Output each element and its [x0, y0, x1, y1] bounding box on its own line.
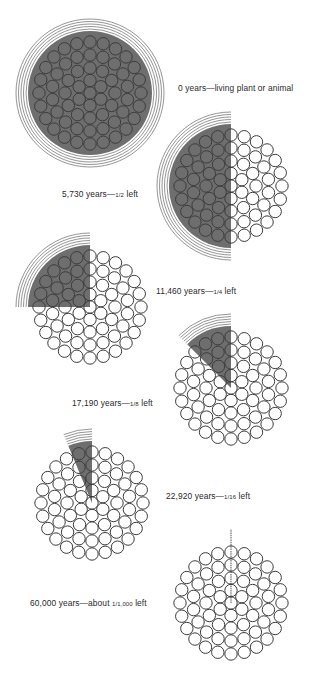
atom-circle	[130, 522, 142, 534]
atom-circle	[212, 403, 224, 415]
atom-circle	[258, 578, 270, 590]
atom-circle	[199, 553, 211, 565]
label-suffix: left	[133, 598, 147, 608]
atom-circle	[236, 603, 248, 615]
atom-circle	[97, 503, 109, 515]
atom-circle	[99, 533, 111, 545]
atom-circle	[225, 394, 237, 406]
atom-circle	[189, 633, 201, 645]
atom-circle	[258, 199, 270, 211]
atom-circle	[192, 401, 204, 413]
atom-circle	[96, 279, 108, 291]
remaining-fill	[187, 326, 231, 388]
fraction-text: 1/8	[130, 401, 139, 407]
atom-circle	[262, 173, 274, 185]
atom-circle	[111, 497, 123, 509]
atom-circle	[238, 144, 250, 156]
atom-circle	[95, 295, 107, 307]
atom-circle	[212, 418, 224, 430]
atom-circle	[64, 484, 76, 496]
atom-circle	[60, 541, 72, 553]
atom-circle	[274, 167, 286, 179]
atom-circle	[269, 205, 281, 217]
atom-circle	[109, 257, 121, 269]
atom-circle	[135, 301, 147, 313]
atom-circle	[236, 174, 248, 186]
atom-circle	[61, 468, 73, 480]
atom-circle	[53, 478, 65, 490]
atom-circle	[135, 484, 147, 496]
atom-circle	[64, 509, 76, 521]
atom-circle	[237, 403, 249, 415]
atom-circle	[238, 431, 250, 443]
atom-circle	[73, 518, 85, 530]
atom-circle	[123, 490, 135, 502]
atom-circle	[274, 395, 286, 407]
atom-circle	[246, 584, 258, 596]
atom-circle	[203, 369, 215, 381]
atom-circle	[225, 635, 237, 647]
atom-circle	[40, 326, 52, 338]
atom-circle	[214, 376, 226, 388]
atom-circle	[111, 541, 123, 553]
atom-circle	[238, 646, 250, 658]
atom-circle	[262, 375, 274, 387]
atom-circle	[274, 369, 286, 381]
atom-circle	[73, 307, 85, 319]
atom-circle	[269, 571, 281, 583]
atom-circle	[236, 591, 248, 603]
remaining-fill	[68, 441, 92, 503]
atom-circle	[97, 337, 109, 349]
atom-circle	[261, 144, 273, 156]
atom-circle	[203, 394, 215, 406]
atom-circle	[212, 431, 224, 443]
atom-circle	[258, 161, 270, 173]
atom-circle	[50, 533, 62, 545]
carbon-decay-diagram	[0, 0, 322, 679]
atom-circle	[214, 591, 226, 603]
atom-circle	[262, 186, 274, 198]
atom-circle	[236, 376, 248, 388]
atom-circle	[189, 418, 201, 430]
atom-circle	[276, 180, 288, 192]
atom-circle	[237, 360, 249, 372]
atom-circle	[199, 641, 211, 653]
atom-circle	[238, 418, 250, 430]
atom-circle	[48, 503, 60, 515]
atom-circle	[96, 322, 108, 334]
atom-circle	[84, 339, 96, 351]
atom-circle	[111, 453, 123, 465]
label-suffix: left	[139, 398, 153, 408]
atom-circle	[246, 369, 258, 381]
atom-circle	[200, 597, 212, 609]
atom-circle	[97, 350, 109, 362]
atom-circle	[53, 516, 65, 528]
atom-circle	[97, 265, 109, 277]
atom-circle	[95, 307, 107, 319]
atom-circle	[212, 646, 224, 658]
atom-circle	[200, 382, 212, 394]
atom-circle	[261, 418, 273, 430]
atom-circle	[61, 526, 73, 538]
atom-circle	[238, 561, 250, 573]
atom-circle	[249, 411, 261, 423]
atom-circle	[73, 533, 85, 545]
atom-circle	[42, 471, 54, 483]
atom-circle	[225, 433, 237, 445]
stage-3	[174, 314, 288, 445]
atom-circle	[58, 345, 70, 357]
atom-circle	[99, 461, 111, 473]
atom-circle	[130, 471, 142, 483]
atom-circle	[246, 192, 258, 204]
atom-circle	[238, 333, 250, 345]
atom-circle	[214, 603, 226, 615]
atom-circle	[109, 345, 121, 357]
atom-circle	[246, 167, 258, 179]
atom-circle	[258, 616, 270, 628]
atom-circle	[249, 626, 261, 638]
atom-circle	[187, 388, 199, 400]
label-stage-3: 17,190 years—1/8 left	[72, 398, 153, 408]
atom-circle	[237, 618, 249, 630]
atom-circle	[128, 326, 140, 338]
atom-circle	[97, 252, 109, 264]
